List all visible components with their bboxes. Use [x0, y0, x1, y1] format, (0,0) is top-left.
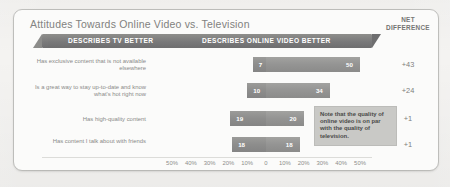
legend-label-online-video: DESCRIBES ONLINE VIDEO BETTER [202, 37, 331, 44]
axis-tick-label: 50% [354, 160, 366, 166]
row-bars: 750 [14, 57, 438, 83]
callout-note-text: Note that the quality of online video is… [320, 111, 384, 139]
legend-label-tv: DESCRIBES TV BETTER [68, 37, 154, 44]
legend-banner: DESCRIBES TV BETTER DESCRIBES ONLINE VID… [42, 34, 372, 48]
bar-value-tv: 10 [253, 87, 260, 94]
bar-value-online-video: 50 [346, 61, 353, 68]
bar-value-online-video: 34 [316, 87, 323, 94]
net-difference-header-line1: NET [380, 16, 436, 24]
net-difference-value: +43 [380, 60, 436, 69]
axis-tick-label: 40% [185, 160, 197, 166]
net-difference-header: NET DIFFERENCE [380, 16, 436, 31]
bar-value-online-video: 18 [286, 141, 293, 148]
axis-tick-label: 10% [241, 160, 253, 166]
axis-tick-label: 10% [279, 160, 291, 166]
callout-note: Note that the quality of online video is… [314, 106, 397, 146]
bar-value-tv: 19 [236, 115, 243, 122]
bar-segment-online-video [266, 137, 300, 152]
axis-tick-label: 20% [222, 160, 234, 166]
net-difference-header-line2: DIFFERENCE [380, 24, 436, 32]
axis-tick-label: 30% [316, 160, 328, 166]
axis-tick-label: 40% [335, 160, 347, 166]
axis-rule [42, 157, 372, 158]
axis-tick-label: 0 [264, 160, 267, 166]
bar-value-tv: 7 [259, 61, 262, 68]
screenshot-root: Attitudes Towards Online Video vs. Telev… [0, 0, 450, 187]
bar-value-tv: 18 [238, 141, 245, 148]
bar-segment-online-video [266, 111, 304, 126]
chart-card: Attitudes Towards Online Video vs. Telev… [13, 9, 439, 171]
x-axis: 50%40%30%20%10%010%20%30%40%50% [14, 160, 438, 170]
axis-tick-label: 20% [298, 160, 310, 166]
chart-row: Has exclusive content that is not availa… [14, 57, 438, 83]
page-title: Attitudes Towards Online Video vs. Telev… [30, 18, 250, 30]
axis-tick-label: 50% [166, 160, 178, 166]
net-difference-value: +24 [380, 86, 436, 95]
bar-value-online-video: 20 [290, 115, 297, 122]
axis-tick-label: 30% [204, 160, 216, 166]
